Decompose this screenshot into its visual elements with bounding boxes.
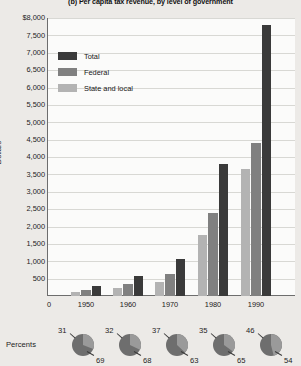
y-axis-tick-label: 3,000	[1, 188, 45, 195]
pie-top-value: 32	[105, 326, 113, 335]
y-axis-tick-label: 4,500	[1, 136, 45, 143]
bar	[176, 259, 186, 296]
y-axis-tick-label: 2,500	[1, 205, 45, 212]
pie-top-value: 46	[246, 326, 254, 335]
y-axis-title: Dollars	[0, 141, 3, 165]
bar	[134, 276, 144, 296]
bar	[262, 25, 272, 296]
x-axis-tick-label: 1950	[78, 300, 94, 309]
y-axis-tick-label: 6,000	[1, 84, 45, 91]
y-axis-tick-label: 1,000	[1, 258, 45, 265]
bar	[165, 274, 175, 296]
pie-top-value: 35	[199, 326, 207, 335]
y-axis-tick-label: $8,000	[1, 14, 45, 21]
y-axis-tick-label: 7,500	[1, 32, 45, 39]
y-axis-tick-label: 5,500	[1, 101, 45, 108]
x-axis-tick-label: 0	[47, 300, 51, 309]
x-axis-tick-label: 1960	[120, 300, 136, 309]
pie-bottom-value: 69	[96, 356, 104, 365]
y-axis-tick-labels: $8,0007,5007,0006,5006,0005,5005,0004,50…	[0, 0, 45, 300]
pie-chart-group: 4654	[246, 326, 301, 366]
pie-top-value: 31	[58, 326, 66, 335]
y-axis-tick-label: 6,500	[1, 66, 45, 73]
y-axis-tick-label: 2,000	[1, 223, 45, 230]
pie-bottom-value: 68	[143, 356, 151, 365]
y-axis-tick-label: 3,500	[1, 171, 45, 178]
bar	[241, 169, 251, 296]
y-axis-tick-label: 4,000	[1, 153, 45, 160]
y-axis-tick-label: 1,500	[1, 240, 45, 247]
bar	[81, 290, 91, 296]
y-axis-tick-label: 7,000	[1, 49, 45, 56]
x-axis-tick-label: 1980	[205, 300, 221, 309]
chart-title: (b) Per capita tax revenue, by level of …	[0, 0, 301, 6]
x-axis-tick-label: 1970	[162, 300, 178, 309]
pie-top-value: 37	[152, 326, 160, 335]
pie-bottom-value: 54	[284, 356, 292, 365]
y-axis-tick-label: 500	[1, 275, 45, 282]
x-axis-tick-label: 1990	[248, 300, 264, 309]
bar	[155, 282, 165, 296]
y-axis-tick-label: 5,000	[1, 119, 45, 126]
bar	[198, 235, 208, 296]
bar	[113, 288, 123, 296]
bars-layer	[47, 18, 295, 296]
bar	[123, 284, 133, 296]
bar	[219, 164, 229, 296]
pie-bottom-value: 63	[190, 356, 198, 365]
pie-bottom-value: 65	[237, 356, 245, 365]
chart-container: (b) Per capita tax revenue, by level of …	[0, 0, 301, 366]
bar	[251, 143, 261, 296]
bar	[208, 213, 218, 296]
bar	[71, 292, 81, 296]
bar	[92, 286, 102, 296]
percents-panel-label: Percents	[6, 340, 36, 349]
